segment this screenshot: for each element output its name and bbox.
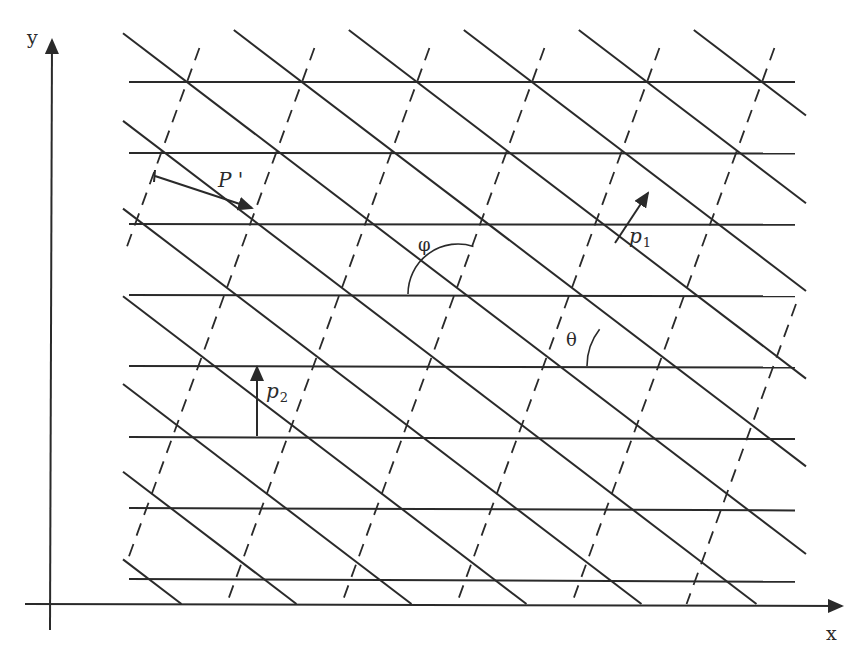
dashed-line bbox=[687, 304, 796, 604]
dashed-line bbox=[342, 48, 545, 604]
theta-arc bbox=[587, 329, 600, 366]
solid-diagonal-lines bbox=[123, 30, 806, 604]
horizontal-line bbox=[129, 437, 795, 439]
solid-diagonal-line bbox=[123, 296, 526, 604]
solid-diagonal-line bbox=[694, 30, 806, 116]
p1-label: p1 bbox=[629, 226, 651, 249]
x-axis bbox=[25, 604, 842, 606]
theta-label: θ bbox=[566, 331, 577, 349]
horizontal-line bbox=[129, 366, 795, 368]
lattice-diagram: y x P ' p1 p2 φ θ bbox=[0, 0, 862, 656]
p2-label: p2 bbox=[266, 381, 288, 404]
horizontal-line bbox=[129, 224, 795, 225]
solid-diagonal-line bbox=[123, 209, 641, 604]
dashed-line bbox=[227, 48, 430, 604]
y-axis bbox=[50, 40, 52, 630]
solid-diagonal-line bbox=[464, 30, 806, 291]
solid-diagonal-line bbox=[123, 121, 756, 604]
solid-diagonal-line bbox=[123, 559, 181, 604]
dashed-line bbox=[572, 48, 775, 604]
p-prime-label: P ' bbox=[218, 170, 243, 190]
vectors bbox=[154, 170, 648, 436]
horizontal-lines bbox=[129, 82, 795, 582]
solid-diagonal-line bbox=[123, 33, 806, 554]
p-prime-tick bbox=[154, 170, 155, 182]
dashed-line bbox=[457, 48, 660, 604]
x-axis-label: x bbox=[826, 624, 837, 643]
dashed-line bbox=[127, 48, 314, 562]
horizontal-line bbox=[129, 508, 795, 510]
solid-diagonal-line bbox=[123, 472, 296, 604]
dashed-line bbox=[127, 48, 199, 246]
coordinate-axes bbox=[25, 40, 842, 630]
solid-diagonal-line bbox=[234, 30, 806, 466]
y-axis-label: y bbox=[27, 28, 38, 47]
dashed-lines bbox=[127, 48, 796, 604]
phi-label: φ bbox=[418, 236, 431, 254]
diagram-svg bbox=[0, 0, 862, 656]
